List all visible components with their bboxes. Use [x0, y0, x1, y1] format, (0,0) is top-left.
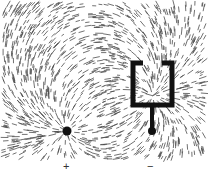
- field-pattern-image: [0, 0, 208, 162]
- field-lines: [1, 0, 208, 162]
- positive-label: +: [63, 161, 69, 172]
- point-electrode: [63, 127, 72, 136]
- loop-electrode: [133, 63, 172, 105]
- negative-label: −: [147, 161, 153, 172]
